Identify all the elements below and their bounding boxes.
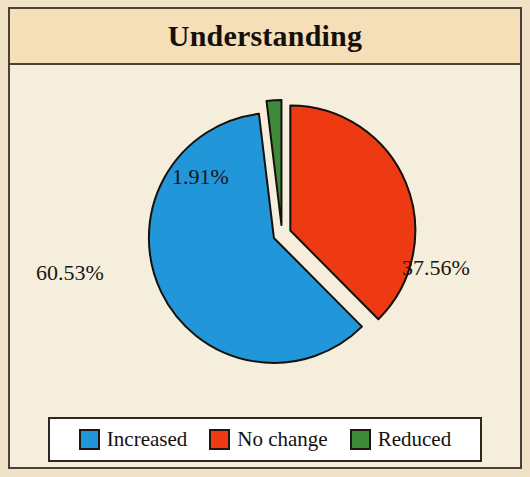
chart-frame: Understanding 1.91% 60.53% 37.56% Increa… [8,7,522,469]
legend-swatch-increased [79,429,100,450]
chart-title-band: Understanding [10,9,520,65]
pie-chart [10,67,520,407]
legend-label-no-change: No change [237,427,327,452]
legend-label-reduced: Reduced [378,427,451,452]
legend-item-increased[interactable]: Increased [79,427,187,452]
data-label-increased: 60.53% [36,260,104,286]
legend-item-no-change[interactable]: No change [209,427,327,452]
legend-item-reduced[interactable]: Reduced [350,427,451,452]
legend-label-increased: Increased [107,427,187,452]
plot-area: 1.91% 60.53% 37.56% Increased No change … [10,67,520,467]
data-label-no-change: 37.56% [402,255,470,281]
legend-swatch-no-change [209,429,230,450]
data-label-reduced: 1.91% [172,164,229,190]
pie-svg [10,67,520,407]
chart-screenshot: Understanding 1.91% 60.53% 37.56% Increa… [0,0,530,477]
legend-swatch-reduced [350,429,371,450]
page-title: Understanding [168,19,362,53]
chart-legend: Increased No change Reduced [48,417,482,462]
